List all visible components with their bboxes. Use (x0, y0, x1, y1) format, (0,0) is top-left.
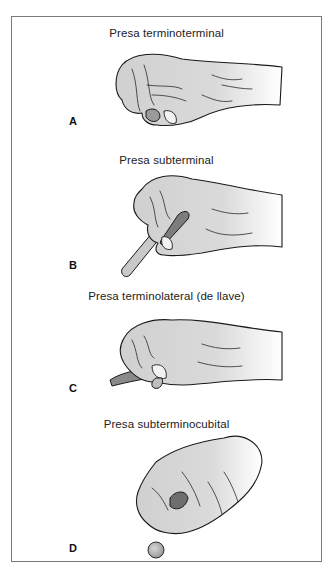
panel-d: Presa subterminocubital D (12, 412, 321, 562)
panel-caption: Presa terminolateral (de llave) (12, 290, 321, 302)
hand-grip-terminolateral-key-illustration (102, 308, 292, 398)
panel-caption: Presa terminoterminal (12, 27, 321, 39)
panel-a: Presa terminoterminal A (12, 17, 321, 147)
panel-caption: Presa subterminocubital (12, 418, 321, 430)
figure-frame: Presa terminoterminal A Presa subtermina… (11, 16, 322, 562)
panel-b: Presa subterminal B (12, 147, 321, 282)
panel-c: Presa terminolateral (de llave) C (12, 282, 321, 412)
hand-grip-subterminocubital-illustration (112, 432, 272, 562)
panel-caption: Presa subterminal (12, 154, 321, 166)
panel-letter: C (69, 382, 77, 394)
hand-grip-subterminal-illustration (102, 169, 292, 279)
ball-object (148, 542, 164, 558)
panel-letter: B (69, 259, 77, 271)
panel-letter: A (69, 115, 77, 127)
panel-letter: D (69, 542, 77, 554)
hand-pinch-terminoterminal-illustration (102, 45, 292, 135)
